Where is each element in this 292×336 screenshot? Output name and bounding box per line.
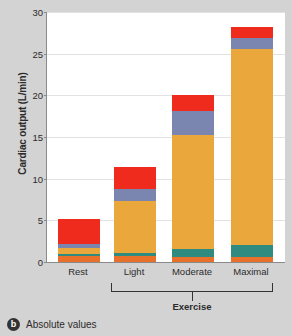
bar-segment-abdominal-organs bbox=[114, 256, 156, 262]
bar-light[interactable] bbox=[114, 167, 156, 262]
bar-segment-skin-other bbox=[58, 219, 100, 244]
bar-segment-skeletal-muscle bbox=[231, 49, 273, 246]
exercise-group-label: Exercise bbox=[172, 301, 211, 312]
exercise-bracket-stem bbox=[192, 292, 193, 301]
bar-segment-abdominal-organs bbox=[172, 257, 214, 262]
x-axis-label-moderate: Moderate bbox=[172, 266, 212, 277]
y-tick-mark bbox=[44, 95, 47, 96]
x-axis-label-light: Light bbox=[124, 266, 145, 277]
bar-segment-heart-coronary bbox=[231, 245, 273, 257]
y-tick-label: 0 bbox=[17, 257, 43, 268]
bar-segment-skeletal-muscle bbox=[172, 135, 214, 249]
y-tick-label: 25 bbox=[17, 48, 43, 59]
plot-area: 051015202530 bbox=[46, 12, 285, 263]
bar-segment-skin-other bbox=[114, 167, 156, 189]
y-tick-mark bbox=[44, 54, 47, 55]
bar-moderate[interactable] bbox=[172, 95, 214, 262]
bar-rest[interactable] bbox=[58, 219, 100, 262]
caption-text: Absolute values bbox=[26, 319, 97, 330]
bar-segment-skin-other bbox=[231, 27, 273, 38]
y-tick-mark bbox=[44, 262, 47, 263]
x-axis-label-rest: Rest bbox=[68, 266, 88, 277]
bar-segment-abdominal-organs bbox=[231, 257, 273, 262]
y-tick-mark bbox=[44, 12, 47, 13]
bar-segment-heart-coronary bbox=[172, 249, 214, 257]
y-tick-mark bbox=[44, 137, 47, 138]
bar-segment-brain bbox=[231, 38, 273, 49]
bar-maximal[interactable] bbox=[231, 27, 273, 262]
bar-segment-skin-other bbox=[172, 95, 214, 110]
bar-segment-skeletal-muscle bbox=[114, 201, 156, 254]
y-tick-mark bbox=[44, 179, 47, 180]
y-tick-label: 20 bbox=[17, 90, 43, 101]
y-tick-mark bbox=[44, 220, 47, 221]
bar-segment-brain bbox=[114, 189, 156, 201]
x-axis-label-maximal: Maximal bbox=[233, 266, 268, 277]
caption-badge: b bbox=[7, 318, 20, 331]
bar-segment-brain bbox=[172, 111, 214, 135]
y-tick-label: 5 bbox=[17, 215, 43, 226]
y-tick-label: 15 bbox=[17, 132, 43, 143]
y-tick-label: 10 bbox=[17, 173, 43, 184]
exercise-bracket bbox=[111, 283, 273, 292]
gridline bbox=[47, 12, 285, 13]
bar-segment-abdominal-organs bbox=[58, 256, 100, 262]
chart-figure: Cardiac output (L/min) 051015202530 Exer… bbox=[0, 0, 292, 336]
y-tick-label: 30 bbox=[17, 7, 43, 18]
figure-caption: b Absolute values bbox=[7, 318, 97, 331]
